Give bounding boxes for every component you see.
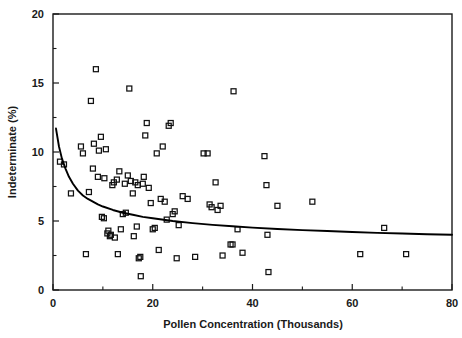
data-point-marker: [148, 201, 153, 206]
data-point-marker: [143, 133, 148, 138]
data-point-marker: [125, 173, 130, 178]
x-tick-label: 20: [147, 297, 159, 309]
data-point-marker: [146, 185, 151, 190]
data-point-marker: [156, 247, 161, 252]
data-point-marker: [160, 144, 165, 149]
data-point-marker: [68, 191, 73, 196]
x-tick-label: 60: [346, 297, 358, 309]
data-point-marker: [90, 166, 95, 171]
data-point-marker: [86, 190, 91, 195]
x-tick-label: 40: [246, 297, 258, 309]
x-axis-title: Pollen Concentration (Thousands): [163, 318, 343, 330]
data-point-marker: [220, 253, 225, 258]
data-point-marker: [91, 141, 96, 146]
data-point-marker: [266, 270, 271, 275]
data-point-marker: [141, 174, 146, 179]
y-axis-major-ticks: [53, 14, 59, 290]
data-point-marker: [265, 232, 270, 237]
y-axis-tick-labels: 05101520: [32, 8, 44, 296]
data-point-marker: [93, 67, 98, 72]
data-point-marker: [144, 121, 149, 126]
data-point-marker: [154, 151, 159, 156]
data-point-marker: [122, 181, 127, 186]
data-point-marker: [131, 234, 136, 239]
x-axis-tick-labels: 020406080: [50, 297, 458, 309]
data-point-marker: [98, 134, 103, 139]
y-tick-label: 5: [38, 215, 44, 227]
data-point-marker: [138, 274, 143, 279]
data-point-marker: [136, 256, 141, 261]
data-point-marker: [176, 223, 181, 228]
data-point-marker: [78, 144, 83, 149]
x-tick-label: 80: [446, 297, 458, 309]
data-point-marker: [117, 169, 122, 174]
data-point-marker: [240, 250, 245, 255]
y-tick-label: 0: [38, 284, 44, 296]
x-tick-label: 0: [50, 297, 56, 309]
data-point-marker: [83, 252, 88, 257]
data-point-marker: [80, 151, 85, 156]
data-point-marker: [102, 176, 107, 181]
data-point-marker: [185, 196, 190, 201]
data-point-marker: [140, 181, 145, 186]
data-point-marker: [404, 252, 409, 257]
y-tick-label: 20: [32, 8, 44, 20]
data-point-marker: [275, 203, 280, 208]
data-point-marker: [174, 256, 179, 261]
data-point-marker: [103, 147, 108, 152]
data-point-marker: [88, 98, 93, 103]
data-point-marker: [231, 89, 236, 94]
data-point-marker: [138, 254, 143, 259]
data-point-marker: [358, 252, 363, 257]
y-tick-label: 10: [32, 146, 44, 158]
data-point-marker: [115, 252, 120, 257]
data-point-marker: [213, 180, 218, 185]
data-point-marker: [180, 194, 185, 199]
data-point-marker: [262, 154, 267, 159]
data-point-marker: [193, 254, 198, 259]
plot-canvas: 020406080 05101520 Pollen Concentration …: [0, 0, 462, 338]
y-tick-label: 15: [32, 77, 44, 89]
x-axis-major-ticks: [53, 284, 452, 290]
data-point-marker: [382, 225, 387, 230]
data-point-marker: [96, 148, 101, 153]
scatter-plot-figure: 020406080 05101520 Pollen Concentration …: [0, 0, 462, 338]
data-point-marker: [134, 224, 139, 229]
scatter-markers: [57, 67, 408, 279]
axes-frame: [53, 14, 452, 290]
data-point-marker: [264, 183, 269, 188]
data-point-marker: [127, 86, 132, 91]
data-point-marker: [118, 227, 123, 232]
plot-frame: [53, 14, 452, 290]
y-axis-title: Indeterminate (%): [6, 106, 18, 199]
data-point-marker: [310, 199, 315, 204]
data-point-marker: [130, 191, 135, 196]
data-point-marker: [95, 174, 100, 179]
